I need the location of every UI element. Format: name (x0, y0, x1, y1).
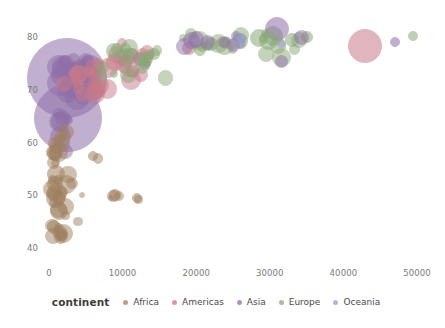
data-point-bubble (93, 153, 104, 164)
legend-title: continent (52, 296, 110, 308)
data-point-bubble (277, 40, 285, 48)
data-point-bubble (110, 70, 118, 78)
legend-item-oceania[interactable]: Oceania (333, 297, 380, 307)
y-axis-tick-label: 40 (12, 243, 38, 253)
data-point-bubble (289, 44, 300, 55)
data-point-bubble (79, 192, 85, 198)
data-point-bubble (48, 175, 57, 184)
data-point-bubble (275, 55, 288, 68)
data-point-bubble (135, 59, 149, 73)
x-axis-tick-label: 20000 (171, 268, 221, 278)
y-axis-tick-label: 50 (12, 190, 38, 200)
data-point-bubble (348, 29, 382, 63)
data-point-bubble (118, 48, 135, 65)
chart-legend: continent AfricaAmericasAsiaEuropeOceani… (0, 296, 445, 308)
legend-item-label: Africa (133, 297, 159, 307)
data-point-bubble (96, 61, 109, 74)
data-point-bubble (390, 37, 400, 47)
legend-item-americas[interactable]: Americas (172, 297, 224, 307)
legend-swatch-icon (172, 300, 177, 305)
legend-item-label: Oceania (343, 297, 380, 307)
x-axis-tick-label: 50000 (392, 268, 442, 278)
x-axis-tick-label: 0 (24, 268, 74, 278)
data-point-bubble (144, 49, 155, 60)
legend-swatch-icon (333, 300, 338, 305)
data-point-bubble (108, 195, 114, 201)
plot-area (0, 0, 445, 268)
x-axis-tick-label: 30000 (245, 268, 295, 278)
data-point-bubble (92, 75, 101, 84)
x-axis-tick-label: 40000 (318, 268, 368, 278)
legend-item-label: Europe (289, 297, 321, 307)
data-point-bubble (73, 217, 82, 226)
legend-item-label: Americas (182, 297, 224, 307)
data-point-bubble (134, 195, 142, 203)
x-axis-tick-label: 10000 (98, 268, 148, 278)
y-axis-tick-label: 60 (12, 138, 38, 148)
y-axis-tick-label: 80 (12, 32, 38, 42)
legend-swatch-icon (123, 300, 128, 305)
data-point-bubble (52, 191, 66, 205)
data-point-bubble (66, 178, 77, 189)
legend-items: AfricaAmericasAsiaEuropeOceania (123, 297, 393, 307)
chart-page: 4050607080 01000020000300004000050000 co… (0, 0, 445, 328)
data-point-bubble (158, 70, 173, 85)
legend-swatch-icon (237, 300, 242, 305)
data-point-bubble (234, 35, 244, 45)
data-point-bubble (84, 66, 95, 77)
data-point-bubble (261, 29, 270, 38)
data-point-bubble (114, 191, 124, 201)
data-point-bubble (176, 38, 193, 55)
legend-item-asia[interactable]: Asia (237, 297, 266, 307)
legend-item-europe[interactable]: Europe (279, 297, 321, 307)
bubble-layer (0, 0, 445, 268)
data-point-bubble (120, 66, 137, 83)
legend-item-africa[interactable]: Africa (123, 297, 159, 307)
y-axis-tick-label: 70 (12, 85, 38, 95)
data-point-bubble (408, 31, 418, 41)
data-point-bubble (48, 137, 62, 151)
legend-swatch-icon (279, 300, 284, 305)
legend-item-label: Asia (247, 297, 266, 307)
